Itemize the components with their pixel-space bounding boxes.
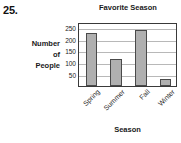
x-tick-label: Spring [82, 88, 101, 107]
bar [160, 79, 171, 86]
chart-title: Favorite Season [76, 3, 180, 12]
x-tick-label: Summer [102, 88, 126, 112]
worksheet-problem: 25. Favorite Season Number of People 250… [0, 0, 181, 143]
y-tick-label: 200 [65, 36, 76, 43]
x-axis-tick-labels: SpringSummerFallWinter [78, 88, 177, 120]
bar [86, 33, 97, 86]
y-tick-label: 100 [65, 60, 76, 67]
y-tick-label: 250 [65, 24, 76, 31]
y-axis-label: Number of People [16, 38, 60, 71]
y-axis-label-line-2: of [16, 49, 60, 60]
y-axis-tick-labels: 25020015010050 [58, 26, 76, 88]
y-axis-label-line-1: Number [16, 38, 60, 49]
y-axis-label-line-3: People [16, 60, 60, 71]
x-tick-label: Fall [138, 88, 151, 101]
y-tick-label: 50 [69, 72, 76, 79]
question-number: 25. [3, 4, 18, 16]
plot-area [78, 23, 177, 87]
y-tick-label: 150 [65, 48, 76, 55]
x-axis-label: Season [78, 125, 177, 134]
bar [135, 30, 146, 86]
x-tick-label: Winter [156, 88, 175, 107]
bar [110, 59, 121, 86]
bar-series [79, 24, 176, 86]
